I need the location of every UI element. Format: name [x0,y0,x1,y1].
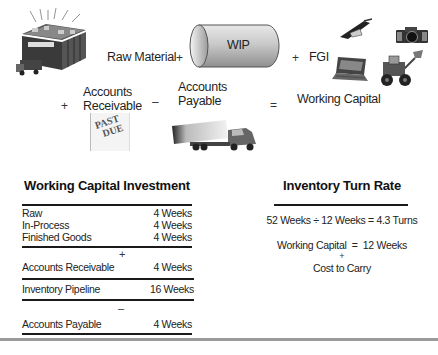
equals-operator: = [270,98,277,112]
working-capital-label: Working Capital [297,92,381,106]
working-capital-weeks: Working Capital = 12 Weeks [264,239,420,251]
minus-operator: – [152,95,159,109]
loader-illustration [377,50,425,88]
past-due-document-illustration: PAST DUE [90,113,130,151]
turn-rate-formula: 52 Weeks ÷ 12 Weeks = 4.3 Turns [264,214,420,226]
raw-material-label: Raw Material [107,50,176,64]
plus-operator: + [61,99,68,113]
divider [22,246,192,248]
divider [22,204,192,206]
laptop-illustration [332,55,370,83]
divider [22,278,194,280]
minus-operator: – [118,302,124,314]
table-row: Finished Goods 4 Weeks [22,231,192,243]
accounts-receivable-label: Accounts Receivable [83,85,142,113]
table-row: Accounts Receivable 4 Weeks [22,261,192,273]
table-row-total: Inventory Pipeline 16 Weeks [22,283,194,295]
wip-label: WIP [227,38,249,52]
plus-operator: + [119,248,125,260]
table-row: Raw 4 Weeks [22,207,192,219]
semi-truck-illustration [170,118,262,152]
accounts-payable-label: Accounts Payable [178,80,227,108]
stapler-illustration [338,17,374,41]
camera-illustration [395,26,429,44]
plus-operator: + [176,51,183,65]
plus-operator: + [264,251,420,261]
divider [274,204,408,206]
bottom-border [0,338,438,341]
fgi-label: FGI [309,50,329,64]
table-row: Accounts Payable 4 Weeks [22,318,192,330]
working-capital-investment-title: Working Capital Investment [22,178,192,193]
table-row: In-Process 4 Weeks [22,219,192,231]
wip-cylinder: WIP [189,23,281,69]
inventory-turn-rate-title: Inventory Turn Rate [274,178,410,193]
divider [22,333,192,335]
warehouse-illustration [14,8,94,80]
divider [22,299,194,301]
cost-to-carry-label: Cost to Carry [264,262,420,274]
plus-operator: + [292,51,299,65]
